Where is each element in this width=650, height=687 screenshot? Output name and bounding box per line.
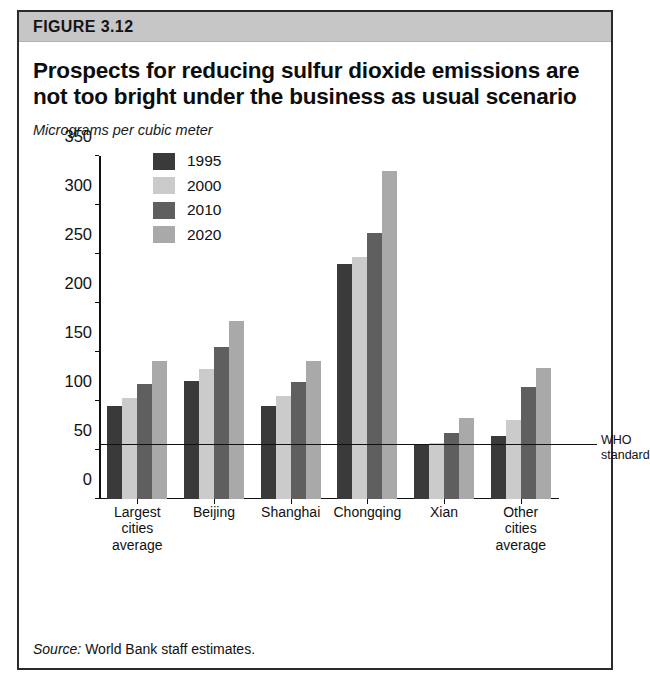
bar-1995-5[interactable]	[414, 445, 429, 499]
x-axis-label-2: Beijing	[176, 504, 253, 553]
who-standard-label: WHOstandard	[601, 433, 650, 462]
y-axis-tick-mark	[95, 351, 99, 352]
y-axis-tick-mark	[95, 253, 99, 254]
bar-2000-1[interactable]	[122, 398, 137, 499]
bar-2000-6[interactable]	[506, 420, 521, 499]
bar-2010-1[interactable]	[137, 384, 152, 500]
x-axis-label-5: Xian	[406, 504, 483, 553]
bar-2010-2[interactable]	[214, 347, 229, 499]
x-axis-label-line: average	[99, 537, 176, 553]
y-axis-tick-label: 50	[74, 421, 92, 440]
bar-2010-4[interactable]	[367, 233, 382, 500]
who-label-line-2: standard	[601, 448, 650, 463]
y-axis-tick-label: 350	[64, 127, 92, 146]
figure-body: Prospects for reducing sulfur dioxide em…	[19, 42, 611, 566]
x-axis-label-line: cities	[99, 520, 176, 536]
y-axis-tick-mark	[95, 400, 99, 401]
bar-1995-1[interactable]	[107, 406, 122, 499]
y-axis-tick-mark	[95, 155, 99, 156]
bar-group-2	[176, 156, 253, 499]
x-axis-label-3: Shanghai	[252, 504, 329, 553]
bar-2020-1[interactable]	[152, 361, 167, 499]
bar-2010-3[interactable]	[291, 382, 306, 500]
bar-group-4	[329, 156, 406, 499]
x-axis-label-line: Other	[482, 504, 559, 520]
chart-title: Prospects for reducing sulfur dioxide em…	[33, 58, 597, 110]
source-text: World Bank staff estimates.	[85, 641, 255, 657]
x-axis-label-1: Largestcitiesaverage	[99, 504, 176, 553]
bar-2020-6[interactable]	[536, 368, 551, 499]
bar-group-6	[482, 156, 559, 499]
x-axis-label-line: Beijing	[176, 504, 253, 520]
bar-1995-4[interactable]	[337, 264, 352, 499]
bar-2010-5[interactable]	[444, 433, 459, 500]
bar-group-5	[406, 156, 483, 499]
y-axis-tick-mark	[95, 498, 99, 499]
y-axis-tick-label: 300	[64, 176, 92, 195]
bar-2000-3[interactable]	[276, 396, 291, 499]
x-axis-label-line: Shanghai	[252, 504, 329, 520]
bar-2020-4[interactable]	[382, 171, 397, 499]
x-axis-label-line: Largest	[99, 504, 176, 520]
bar-1995-3[interactable]	[261, 406, 276, 499]
plot-canvas: 050100150200250300350WHOstandard	[99, 156, 559, 499]
x-axis-label-6: Othercitiesaverage	[482, 504, 559, 553]
who-label-line-1: WHO	[601, 433, 632, 447]
bar-1995-2[interactable]	[184, 381, 199, 500]
bar-2020-3[interactable]	[306, 361, 321, 499]
y-axis-tick-label: 0	[83, 470, 92, 489]
source-note: Source: World Bank staff estimates.	[33, 641, 255, 657]
y-axis-tick-label: 200	[64, 274, 92, 293]
bar-group-3	[252, 156, 329, 499]
bar-2000-4[interactable]	[352, 257, 367, 499]
y-axis-tick-mark	[95, 302, 99, 303]
figure-frame: FIGURE 3.12 Prospects for reducing sulfu…	[17, 10, 613, 670]
x-axis-label-line: Chongqing	[329, 504, 406, 520]
chart-subtitle: Micrograms per cubic meter	[33, 122, 597, 138]
bar-group-1	[99, 156, 176, 499]
y-axis-tick-label: 250	[64, 225, 92, 244]
figure-band: FIGURE 3.12	[19, 12, 611, 42]
who-standard-line	[99, 444, 597, 446]
bar-1995-6[interactable]	[491, 436, 506, 499]
bar-2000-2[interactable]	[199, 369, 214, 499]
x-axis-label-line: Xian	[406, 504, 483, 520]
bar-2020-5[interactable]	[459, 418, 474, 499]
y-axis-tick-mark	[95, 449, 99, 450]
x-axis-labels: LargestcitiesaverageBeijingShanghaiChong…	[99, 504, 559, 553]
source-prefix: Source:	[33, 641, 81, 657]
bar-2020-2[interactable]	[229, 321, 244, 499]
bar-groups	[99, 156, 559, 499]
x-axis-label-4: Chongqing	[329, 504, 406, 553]
chart-plot-area: 1995200020102020 050100150200250300350WH…	[33, 146, 599, 566]
bar-2000-5[interactable]	[429, 443, 444, 499]
x-axis-label-line: average	[482, 537, 559, 553]
x-axis-label-line: cities	[482, 520, 559, 536]
y-axis-tick-mark	[95, 204, 99, 205]
y-axis-tick-label: 150	[64, 323, 92, 342]
figure-number-label: FIGURE 3.12	[33, 18, 133, 36]
y-axis-tick-label: 100	[64, 372, 92, 391]
